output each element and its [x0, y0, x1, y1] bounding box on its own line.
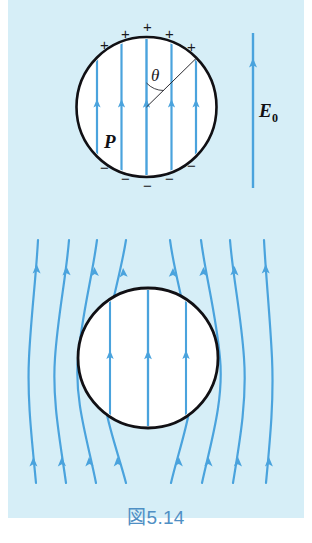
figure-container: θ P + + + + + − − − − −	[0, 0, 312, 543]
positive-sign: +	[121, 25, 130, 42]
positive-sign: +	[100, 36, 109, 53]
negative-sign: −	[187, 157, 196, 174]
negative-sign: −	[165, 170, 174, 187]
external-field-subscript: 0	[272, 111, 278, 125]
negative-sign: −	[121, 170, 130, 187]
positive-sign: +	[187, 38, 196, 55]
positive-sign: +	[165, 25, 174, 42]
figure-5-14-svg: θ P + + + + + − − − − −	[0, 0, 312, 543]
positive-sign: +	[143, 18, 152, 35]
figure-caption: 図5.14	[127, 507, 185, 528]
negative-sign: −	[100, 159, 109, 176]
negative-sign: −	[143, 177, 152, 194]
external-field-label: E	[258, 100, 272, 121]
polarization-label: P	[103, 131, 116, 152]
theta-label: θ	[151, 66, 159, 85]
